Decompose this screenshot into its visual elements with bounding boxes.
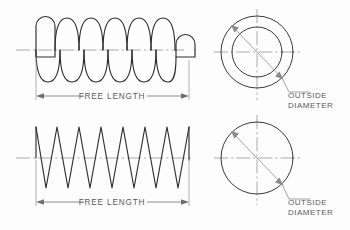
spring-left-end-coil <box>36 17 55 50</box>
spring-left-end-ground-face <box>36 50 55 57</box>
outside-diameter-label-top-line2: DIAMETER <box>288 101 333 110</box>
free-length-label-top: FREE LENGTH <box>79 92 146 101</box>
spring-coil-front-2 <box>60 50 84 82</box>
outside-diameter-label-bottom-line2: DIAMETER <box>288 208 333 217</box>
free-length-arrow-left <box>36 93 44 99</box>
spring-coil-back-3 <box>103 18 127 50</box>
view-schematic-spring-side: FREE LENGTH <box>16 127 192 207</box>
spring-coil-front-1 <box>36 50 60 82</box>
outside-diameter-leader-top <box>282 78 310 92</box>
spring-coil-front-5 <box>132 50 156 82</box>
schematic-zigzag-coils <box>36 127 189 188</box>
outside-diameter-arrow-top-start <box>231 25 239 33</box>
free-length-arrow-right <box>181 93 189 99</box>
engineering-drawing-canvas: FREE LENGTH FREE LENGTH <box>0 0 350 230</box>
view-end-concentric: OUTSIDE DIAMETER <box>214 9 333 110</box>
view-end-single: OUTSIDE DIAMETER <box>214 115 333 217</box>
schematic-free-length-arrow-right <box>181 199 189 205</box>
outside-diameter-label-bottom-line1: OUTSIDE <box>288 198 327 207</box>
spring-right-end-ground-face <box>176 50 195 57</box>
spring-coil-front-4 <box>108 50 132 82</box>
schematic-free-length-arrow-left <box>36 199 44 205</box>
spring-coil-front-6 <box>156 50 176 82</box>
spring-coil-back-1 <box>55 18 79 50</box>
spring-coil-back-5 <box>151 18 175 50</box>
view-helical-spring-side: FREE LENGTH <box>16 17 195 101</box>
spring-coil-back-2 <box>79 18 103 50</box>
spring-coil-front-3 <box>84 50 108 82</box>
drawing-svg: FREE LENGTH FREE LENGTH <box>0 0 350 230</box>
spring-coil-back-4 <box>127 18 151 50</box>
free-length-label-bottom: FREE LENGTH <box>79 198 146 207</box>
spring-right-end-coil <box>176 35 195 51</box>
outside-diameter-arrow-bottom-start <box>231 131 239 139</box>
outside-diameter-leader-bottom <box>282 184 310 199</box>
outside-diameter-label-top-line1: OUTSIDE <box>288 91 327 100</box>
